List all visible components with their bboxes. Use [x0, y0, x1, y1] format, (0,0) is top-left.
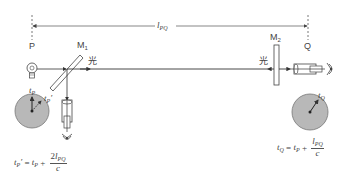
- eq-q-equals: =: [284, 143, 294, 153]
- equation-q: tQ = tP + lPQ c: [277, 137, 324, 158]
- distance-subscript: PQ: [160, 25, 168, 31]
- eq-p-lhs: tP′: [14, 157, 22, 168]
- mirror-m2-label: M2: [270, 33, 281, 43]
- eq-q-lhs: tQ: [277, 142, 284, 153]
- tp-sub: P: [32, 90, 36, 96]
- m1-sub: 1: [85, 45, 88, 51]
- eq-p-fraction: 2lPQ c: [50, 152, 67, 173]
- equation-p: tP′ = tP + 2lPQ c: [14, 152, 67, 173]
- telescope-q-icon: [290, 64, 325, 74]
- eq-q-plus: +: [300, 143, 310, 153]
- eye-p-icon: [62, 134, 72, 140]
- mirror-m2: [274, 45, 279, 85]
- distance-label: lPQ: [157, 21, 168, 31]
- eq-q-numerator: lPQ: [311, 137, 324, 149]
- m1-text: M: [77, 40, 85, 50]
- clock-p-hand2-label: tP′: [44, 94, 52, 104]
- tp2-prime: ′: [50, 93, 52, 103]
- mirror-m1: [50, 55, 83, 91]
- point-q-label: Q: [304, 42, 311, 51]
- eye-q-icon: [327, 63, 332, 75]
- point-p-label: P: [29, 42, 35, 51]
- light-outgoing-label: 光: [88, 57, 97, 66]
- eq-p-equals: =: [22, 158, 32, 168]
- telescope-p-icon: [62, 100, 72, 132]
- tq-sub: Q: [321, 95, 325, 101]
- m2-text: M: [270, 32, 278, 42]
- eq-q-denominator: c: [315, 149, 319, 159]
- clock-q-hand-label: tQ: [318, 91, 325, 101]
- eq-p-plus: +: [38, 158, 48, 168]
- mirror-m1-label: M1: [77, 41, 88, 51]
- m2-sub: 2: [278, 37, 281, 43]
- eq-q-fraction: lPQ c: [311, 137, 324, 158]
- eq-p-numerator: 2lPQ: [50, 152, 67, 164]
- light-bulb-icon: [27, 63, 37, 78]
- clock-p-hand1-label: tP: [29, 86, 35, 96]
- light-returning-label: 光: [259, 57, 268, 66]
- eq-p-denominator: c: [56, 164, 60, 174]
